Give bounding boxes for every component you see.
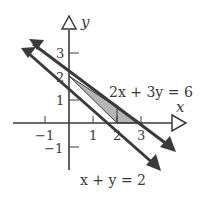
tick-label-x1: 1 [89,128,97,143]
equation-label-x-y-2: x + y = 2 [80,172,146,188]
tick-label-x2: 2 [113,128,121,143]
arrowhead-icon [160,136,176,152]
tick-label-y1: 1 [56,93,64,108]
y-axis-arrow-icon [62,16,76,29]
linear-inequality-graph: y x −1 1 2 3 3 2 1 −1 2x + 3y = 6 x + y … [0,0,205,201]
y-axis-label: y [80,13,90,31]
arrowhead-icon [146,154,161,171]
tick-label-x3: 3 [137,128,145,143]
x-axis-arrow-icon [172,115,186,131]
equation-label-2x-3y-6: 2x + 3y = 6 [109,84,193,100]
tick-label-y3: 3 [56,46,64,61]
tick-label-ym1: −1 [44,141,63,156]
x-axis-label: x [176,98,185,116]
tick-label-y2: 2 [56,70,64,85]
y-ticks [69,53,79,147]
